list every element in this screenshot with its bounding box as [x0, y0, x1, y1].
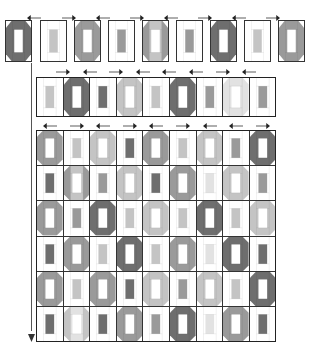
pressing-arrow-left-icon	[203, 123, 217, 129]
quilt-top-block	[222, 271, 250, 307]
quilt-top-block	[196, 165, 224, 201]
pressing-arrow-right-icon	[123, 123, 137, 129]
pressing-arrow-right-icon	[62, 15, 76, 21]
quilt-top-block	[196, 271, 224, 307]
quilt-top-block	[63, 236, 91, 272]
quilt-top-block	[169, 306, 197, 342]
strip-row-block	[89, 77, 117, 117]
top-row-block	[244, 20, 271, 62]
top-row-block	[142, 20, 169, 62]
quilt-top-block	[249, 200, 277, 236]
pressing-arrow-left-icon	[189, 69, 203, 75]
top-row-block	[278, 20, 305, 62]
quilt-top-block	[36, 236, 64, 272]
quilt-top-block	[222, 236, 250, 272]
quilt-top-block	[169, 236, 197, 272]
pressing-arrow-left-icon	[43, 123, 57, 129]
pressing-arrow-right-icon	[216, 69, 230, 75]
quilt-top-block	[249, 306, 277, 342]
quilt-top-block	[116, 271, 144, 307]
quilt-top-block	[89, 306, 117, 342]
pressing-arrow-left-icon	[83, 69, 97, 75]
quilt-top-block	[36, 165, 64, 201]
quilt-top-block	[116, 200, 144, 236]
pressing-arrow-left-icon	[164, 15, 178, 21]
pressing-arrow-left-icon	[242, 69, 256, 75]
strip-row-block	[222, 77, 250, 117]
quilt-top-block	[36, 200, 64, 236]
top-row-block	[40, 20, 67, 62]
pressing-arrow-right-icon	[56, 69, 70, 75]
quilt-top-block	[142, 236, 170, 272]
quilt-top-block	[89, 165, 117, 201]
pressing-arrow-left-icon	[229, 123, 243, 129]
quilt-top-block	[169, 165, 197, 201]
quilt-top-block	[249, 130, 277, 166]
quilt-top-block	[222, 130, 250, 166]
pressing-arrow-right-icon	[256, 123, 270, 129]
quilt-top-block	[142, 306, 170, 342]
quilt-top-block	[116, 130, 144, 166]
quilt-top-block	[169, 271, 197, 307]
quilt-top-block	[196, 236, 224, 272]
pressing-arrow-right-icon	[176, 123, 190, 129]
quilt-top-block	[116, 165, 144, 201]
pressing-arrow-right-icon	[266, 15, 280, 21]
pressing-arrow-left-icon	[162, 69, 176, 75]
quilt-top-block	[63, 200, 91, 236]
strip-row-block	[249, 77, 277, 117]
quilt-top-block	[196, 306, 224, 342]
quilt-top-block	[249, 165, 277, 201]
strip-row-block	[63, 77, 91, 117]
quilt-top-block	[89, 130, 117, 166]
top-row-block	[5, 20, 32, 62]
top-row-block	[74, 20, 101, 62]
quilt-top-block	[116, 236, 144, 272]
quilt-top-block	[142, 130, 170, 166]
quilt-top-block	[222, 306, 250, 342]
top-row-block	[176, 20, 203, 62]
quilt-top-block	[63, 130, 91, 166]
top-row-block	[210, 20, 237, 62]
pressing-arrow-right-icon	[130, 15, 144, 21]
pressing-arrow-right-icon	[70, 123, 84, 129]
pressing-arrow-left-icon	[136, 69, 150, 75]
quilt-top-block	[63, 271, 91, 307]
top-row-block	[108, 20, 135, 62]
quilt-top-block	[222, 200, 250, 236]
pressing-arrow-left-icon	[149, 123, 163, 129]
strip-row-block	[116, 77, 144, 117]
quilt-top-block	[142, 165, 170, 201]
pressing-arrow-right-icon	[109, 69, 123, 75]
quilt-top-block	[36, 271, 64, 307]
quilt-top-block	[222, 165, 250, 201]
pressing-arrow-left-icon	[232, 15, 246, 21]
quilt-top-block	[169, 200, 197, 236]
strip-row-block	[196, 77, 224, 117]
quilt-top-block	[89, 271, 117, 307]
quilt-top-block	[89, 200, 117, 236]
strip-row-block	[36, 77, 64, 117]
strip-row-block	[142, 77, 170, 117]
quilt-top-block	[63, 306, 91, 342]
strip-row-block	[169, 77, 197, 117]
pressing-arrow-left-icon	[96, 15, 110, 21]
quilt-top-block	[169, 130, 197, 166]
quilt-top-block	[36, 130, 64, 166]
pressing-arrow-left-icon	[96, 123, 110, 129]
quilt-top-block	[89, 236, 117, 272]
pressing-arrow-right-icon	[198, 15, 212, 21]
quilt-top-block	[196, 200, 224, 236]
quilt-top-block	[142, 200, 170, 236]
layout-line	[31, 63, 32, 331]
quilt-top-block	[196, 130, 224, 166]
quilt-top-block	[249, 236, 277, 272]
quilt-top-block	[116, 306, 144, 342]
quilt-top-block	[249, 271, 277, 307]
quilt-top-block	[142, 271, 170, 307]
quilt-top-block	[36, 306, 64, 342]
pressing-arrow-left-icon	[27, 15, 41, 21]
quilt-top-block	[63, 165, 91, 201]
arrow-down-icon	[28, 328, 35, 336]
